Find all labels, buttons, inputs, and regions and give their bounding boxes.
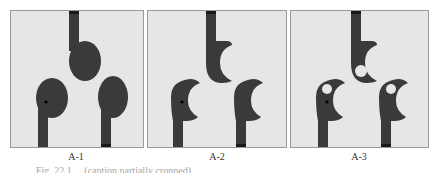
antenna-array-crescent-icon (148, 11, 286, 147)
antenna-array-elliptical-icon (11, 11, 143, 147)
panel-a2 (147, 10, 287, 148)
panel-label-a2: A-2 (187, 151, 247, 162)
figure: A-1 A-2 (0, 0, 437, 173)
antenna-array-slotted-crescent-icon (291, 11, 428, 147)
figure-caption: Fig. 22.1 ... (caption partially cropped… (36, 165, 191, 173)
panel-a3 (290, 10, 429, 148)
panel-label-a3: A-3 (329, 151, 389, 162)
panel-a1 (10, 10, 144, 148)
panel-label-a1: A-1 (46, 151, 106, 162)
